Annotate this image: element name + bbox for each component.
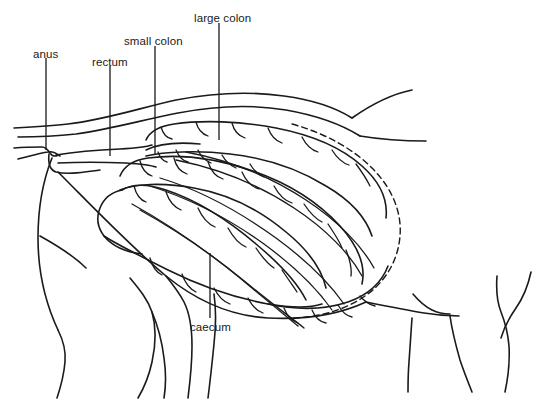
foreleg-group — [366, 272, 531, 392]
label-anus: anus — [33, 49, 58, 61]
caecum-body — [98, 186, 388, 324]
label-rectum: rectum — [92, 57, 128, 69]
anatomy-line-drawing — [0, 0, 543, 402]
label-small-colon: small colon — [124, 36, 183, 48]
leader-lines — [46, 23, 219, 318]
rectum-segment — [56, 145, 156, 167]
label-large-colon: large colon — [194, 13, 251, 25]
small-colon-coils — [146, 143, 264, 177]
horse-body-outline — [14, 90, 426, 398]
anatomy-figure: anus rectum small colon large colon caec… — [0, 0, 543, 402]
label-caecum: caecum — [190, 322, 231, 334]
